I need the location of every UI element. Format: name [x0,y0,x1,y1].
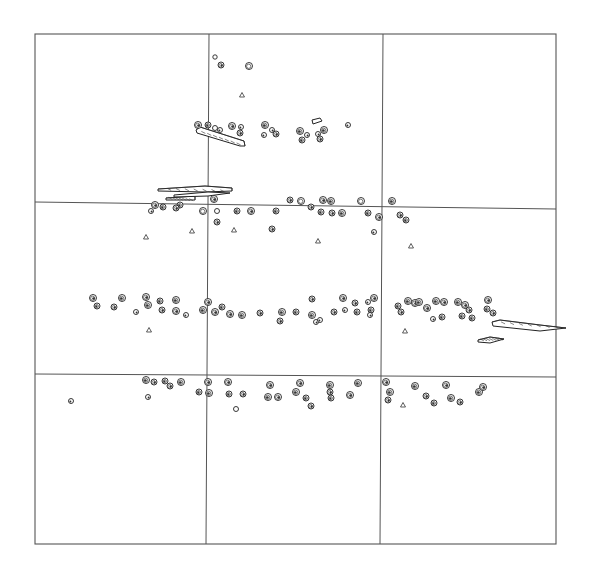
triangle-marker [147,328,152,333]
triangular-markers [144,93,414,408]
circle-feature [273,208,279,214]
circle-feature [368,307,374,313]
circle-feature [234,208,240,214]
log-7 [478,337,504,343]
circle-feature [273,131,279,137]
circle-feature [485,297,492,304]
circle-feature [343,308,348,313]
circle-feature [327,389,333,395]
circle-feature [267,382,274,389]
circle-feature [297,380,304,387]
circle-feature [480,384,487,391]
circle-feature [145,302,152,309]
circle-feature [167,383,173,389]
circle-feature [69,399,74,404]
circle-feature [157,298,163,304]
grid-line-horizontal-2 [35,374,556,377]
circle-feature [111,304,117,310]
circle-feature [287,197,293,203]
triangle-marker [190,229,195,234]
circle-feature [214,219,220,225]
circle-feature [239,125,244,130]
circle-feature [149,209,154,214]
circle-feature [371,295,378,302]
circle-feature [212,309,219,316]
circle-feature [443,382,450,389]
circle-feature [484,306,490,312]
site-plan-figure [0,0,596,577]
circle-feature [146,395,151,400]
circle-feature [469,315,475,321]
circle-feature [237,130,243,136]
circle-feature [395,303,401,309]
circle-feature [173,205,179,211]
grid [35,34,556,544]
circle-feature [143,294,150,301]
circle-feature [303,395,309,401]
circle-feature [305,133,310,138]
circle-feature [205,122,211,128]
circle-feature [327,382,334,389]
circle-feature [397,212,403,218]
circle-feature [265,394,272,401]
circle-feature [403,217,409,223]
circle-feature [431,400,437,406]
circle-feature [240,391,246,397]
circular-features [69,55,497,412]
circle-feature [279,309,286,316]
circle-feature [94,303,100,309]
circle-feature [248,208,255,215]
circle-feature [398,309,404,315]
circle-feature [297,128,304,135]
circle-feature [368,313,373,318]
circle-feature [340,295,347,302]
log-5 [312,118,322,124]
circle-feature [320,197,327,204]
circle-feature [339,210,346,217]
circle-feature [405,298,412,305]
log-2 [158,186,232,192]
circle-feature [160,204,166,210]
triangle-marker [144,235,149,240]
circle-feature [134,310,139,315]
circle-feature [457,399,463,405]
circle-feature [431,317,436,322]
grid-line-vertical-1 [206,34,209,544]
circle-feature [441,299,448,306]
circle-feature [308,403,314,409]
circle-feature [309,312,316,319]
log-6 [492,320,566,331]
circle-feature [277,318,283,324]
triangle-marker [409,244,414,249]
circle-feature [262,133,267,138]
circle-feature [321,127,328,134]
circle-feature [143,377,150,384]
circle-feature [226,391,232,397]
circle-feature [205,299,212,306]
circle-feature [433,298,440,305]
circle-feature [275,394,282,401]
circle-feature [490,310,496,316]
circle-feature [205,379,212,386]
circle-feature [347,392,354,399]
circle-feature [159,307,165,313]
circle-feature [229,123,236,130]
circle-feature [355,380,362,387]
triangle-marker [403,329,408,334]
circle-feature [200,208,207,215]
circle-feature [299,137,305,143]
triangle-marker [232,228,237,233]
circle-feature [365,210,371,216]
circle-feature [424,305,431,312]
circle-feature [173,297,180,304]
circle-feature [309,296,315,302]
circle-feature [317,136,323,142]
circle-feature [213,126,218,131]
triangle-marker [316,239,321,244]
circle-feature [412,383,419,390]
triangle-marker [240,93,245,98]
circle-feature [206,390,213,397]
circle-feature [234,407,239,412]
circle-feature [90,295,97,302]
log-4 [174,192,230,197]
